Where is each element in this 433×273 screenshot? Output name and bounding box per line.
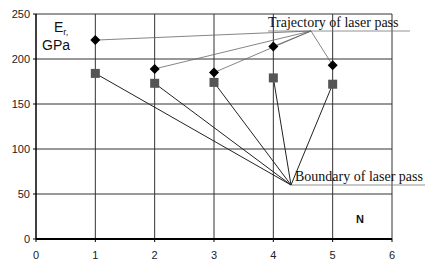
diamond-marker	[268, 41, 278, 51]
diamond-marker	[328, 60, 338, 70]
x-tick-label: 0	[33, 249, 39, 261]
y-axis-label: Er,	[54, 19, 68, 37]
y-axis-ticks: 050100150200250	[12, 8, 36, 245]
diamond-marker	[150, 64, 160, 74]
y-tick-label: 150	[12, 98, 30, 110]
chart: 050100150200250 0123456 Er, GPa N Trajec…	[0, 0, 433, 273]
boundary-leader	[214, 82, 291, 185]
y-tick-label: 200	[12, 53, 30, 65]
y-tick-label: 0	[24, 233, 30, 245]
y-tick-label: 250	[12, 8, 30, 20]
x-tick-label: 5	[330, 249, 336, 261]
diamond-marker	[90, 35, 100, 45]
x-axis-ticks: 0123456	[33, 239, 395, 261]
square-marker	[91, 69, 100, 78]
boundary-leader	[95, 73, 291, 185]
x-axis-label: N	[356, 213, 364, 225]
boundary-leader	[155, 83, 291, 185]
square-marker	[150, 79, 159, 88]
y-axis-unit: GPa	[42, 37, 70, 53]
square-marker	[269, 73, 278, 82]
annotation-trajectory: Trajectory of laser pass	[268, 15, 399, 30]
x-tick-label: 1	[92, 249, 98, 261]
y-tick-label: 50	[18, 188, 30, 200]
grid-lines	[36, 14, 392, 239]
diamond-marker	[209, 68, 219, 78]
x-tick-label: 3	[211, 249, 217, 261]
y-tick-label: 100	[12, 143, 30, 155]
x-tick-label: 4	[270, 249, 276, 261]
square-marker	[328, 80, 337, 89]
annotation-boundary: Boundary of laser pass	[295, 169, 423, 184]
x-tick-label: 6	[389, 249, 395, 261]
x-tick-label: 2	[152, 249, 158, 261]
square-marker	[210, 78, 219, 87]
annotation-leader-lines	[95, 31, 425, 185]
boundary-leader	[273, 78, 291, 185]
trajectory-leader	[311, 31, 333, 65]
